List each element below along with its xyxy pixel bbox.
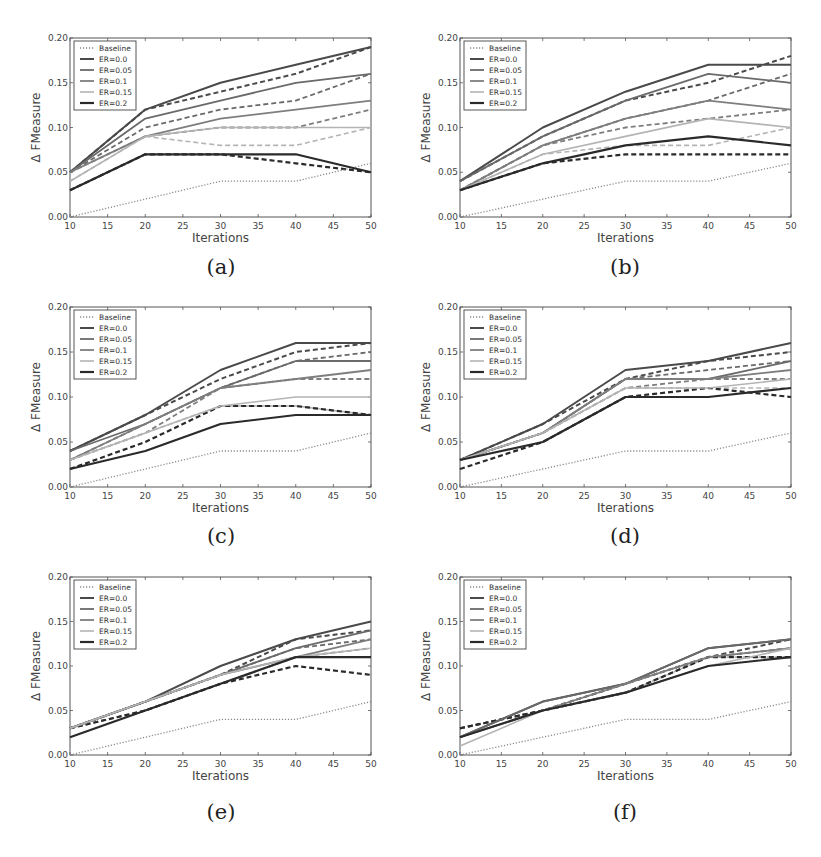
legend: BaselineER=0.0ER=0.05ER=0.1ER=0.15ER=0.2 [464,580,526,649]
y-axis-label: Δ FMeasure [419,631,433,701]
caption-b: (b) [565,255,685,279]
x-tick-label: 15 [496,759,507,769]
x-tick-label: 50 [785,759,797,769]
caption-d: (d) [565,524,685,548]
legend-label: Baseline [489,583,521,592]
x-tick-label: 10 [454,759,466,769]
legend-label: ER=0.0 [489,594,517,603]
y-tick-label: 0.05 [438,706,458,716]
legend-label: ER=0.1 [489,616,517,625]
y-tick-label: 0.10 [438,661,458,671]
x-tick-label: 45 [744,759,755,769]
y-tick-label: 0.20 [438,572,458,582]
chart-svg: 1015202530354045500.000.050.100.150.20It… [0,0,821,857]
legend-label: ER=0.05 [489,605,522,614]
caption-c: (c) [161,524,281,548]
caption-e: (e) [161,800,281,824]
x-tick-label: 25 [578,759,589,769]
x-tick-label: 35 [661,759,672,769]
legend-label: ER=0.15 [489,627,522,636]
y-tick-label: 0.15 [438,617,458,627]
caption-f: (f) [565,800,685,824]
x-tick-label: 40 [703,759,715,769]
legend-label: ER=0.2 [489,638,517,647]
caption-a: (a) [161,255,281,279]
x-axis-label: Iterations [597,769,654,783]
x-tick-label: 30 [620,759,632,769]
x-tick-label: 20 [537,759,549,769]
y-tick-label: 0.00 [438,750,458,760]
